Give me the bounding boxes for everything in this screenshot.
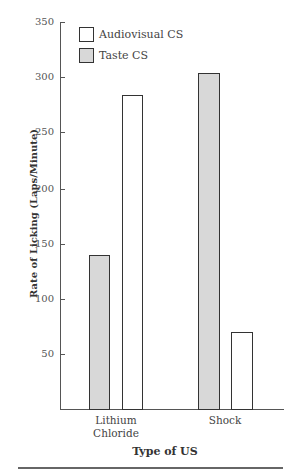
category-label-lithium-chloride: Lithium Chloride [81,414,151,440]
legend-label-taste: Taste CS [99,49,148,62]
y-axis [60,22,61,410]
bottom-rule [18,467,283,469]
bar-lithium-chloride-taste-cs [89,255,110,410]
category-label-line: Chloride [81,427,151,440]
legend-label-audiovisual: Audiovisual CS [99,28,183,41]
y-tick [60,77,65,78]
y-axis-label: Rate of Licking (Laps/Minute) [28,124,39,304]
category-label-line: Lithium [81,414,151,427]
bar-shock-taste-cs [198,73,220,410]
y-tick [60,22,65,23]
chart: 350 300 250 200 150 100 50 Rate of Licki… [0,0,297,470]
y-tick-label: 300 [24,71,54,82]
y-tick [60,299,65,300]
legend-swatch-audiovisual [79,27,94,42]
y-tick [60,189,65,190]
y-tick [60,132,65,133]
legend-swatch-taste [79,48,94,63]
bar-shock-audiovisual-cs [231,332,253,410]
y-tick [60,354,65,355]
category-label-line: Shock [190,414,260,427]
y-tick-label: 50 [24,348,54,359]
y-tick [60,244,65,245]
category-label-shock: Shock [190,414,260,427]
x-axis-label: Type of US [90,445,240,458]
y-tick-label: 350 [24,16,54,27]
bar-lithium-chloride-audiovisual-cs [122,95,143,410]
